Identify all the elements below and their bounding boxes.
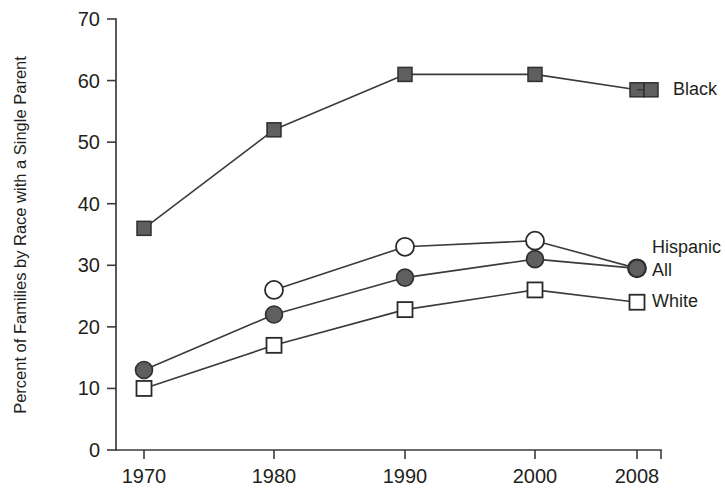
legend-label-black: Black (673, 79, 718, 99)
x-tick-label: 2008 (615, 465, 660, 487)
legend-label-white: White (652, 291, 698, 311)
y-tick-label: 0 (89, 439, 100, 461)
data-point-marker (396, 238, 414, 256)
x-tick-label: 2000 (513, 465, 558, 487)
series-all (136, 251, 646, 379)
x-tick-label: 1970 (122, 465, 167, 487)
y-axis-title: Percent of Families by Race with a Singl… (11, 56, 29, 414)
legend-marker-black (644, 83, 658, 97)
data-point-marker (267, 338, 282, 353)
series-black (137, 67, 644, 235)
data-point-marker (137, 221, 151, 235)
series-white (137, 282, 645, 396)
chart-container: 010203040506070 19701980199020002008 Per… (0, 0, 725, 501)
data-point-marker (137, 381, 152, 396)
data-point-marker (528, 67, 542, 81)
y-tick-label: 40 (78, 193, 100, 215)
line-chart: 010203040506070 19701980199020002008 Per… (0, 0, 725, 501)
data-point-marker (136, 361, 153, 378)
y-tick-label: 60 (78, 70, 100, 92)
y-tick-label: 50 (78, 131, 100, 153)
series-line-black (144, 74, 637, 228)
data-point-marker (397, 269, 414, 286)
series-line-hispanic (274, 241, 637, 290)
y-tick-label: 10 (78, 377, 100, 399)
y-axis-ticks: 010203040506070 (78, 8, 116, 461)
data-point-marker (267, 123, 281, 137)
x-axis-ticks: 19701980199020002008 (122, 450, 661, 487)
series-line-all (144, 259, 637, 370)
data-point-marker (526, 232, 544, 250)
data-point-marker (528, 282, 543, 297)
y-tick-label: 30 (78, 254, 100, 276)
data-point-marker (527, 251, 544, 268)
data-point-marker (398, 67, 412, 81)
chart-legend: BlackHispanicAllWhite (637, 79, 721, 311)
legend-label-hispanic: Hispanic (652, 237, 721, 257)
data-point-marker (630, 295, 645, 310)
x-tick-label: 1980 (252, 465, 297, 487)
data-point-marker (265, 281, 283, 299)
series-hispanic (265, 232, 646, 299)
chart-axes (116, 19, 661, 450)
data-point-marker (629, 260, 646, 277)
y-tick-label: 20 (78, 316, 100, 338)
x-tick-label: 1990 (383, 465, 428, 487)
y-tick-label: 70 (78, 8, 100, 30)
chart-series-group (136, 67, 647, 396)
legend-label-all: All (652, 260, 672, 280)
data-point-marker (266, 306, 283, 323)
data-point-marker (398, 302, 413, 317)
